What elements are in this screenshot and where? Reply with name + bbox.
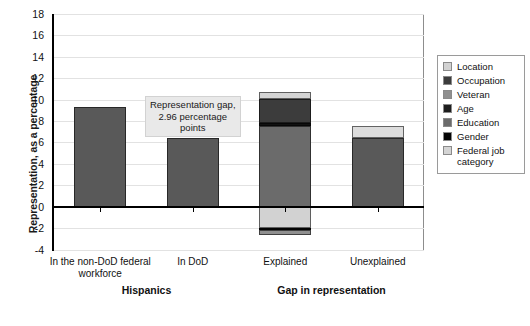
legend: LocationOccupationVeteranAgeEducationGen… — [437, 55, 525, 174]
legend-item-age[interactable]: Age — [443, 103, 520, 114]
plot-area: Representation gap, 2.96 percentage poin… — [52, 14, 424, 251]
y-axis-tick-label: 2 — [38, 179, 44, 191]
x-axis-label-unexplained: Unexplained — [326, 256, 430, 268]
legend-item-label: Location — [457, 61, 493, 72]
legend-item-label: Gender — [457, 131, 489, 142]
legend-item-label: Education — [457, 117, 499, 128]
bar-segment-unexplained-upper — [352, 126, 404, 138]
bar-segment-federal-job-category — [259, 92, 311, 99]
legend-item-label: Occupation — [457, 75, 505, 86]
group-label-gap-in-representation: Gap in representation — [242, 284, 422, 296]
y-axis-tick-label: 8 — [38, 115, 44, 127]
legend-item-occupation[interactable]: Occupation — [443, 75, 520, 86]
bar-explained[interactable] — [259, 14, 311, 250]
legend-item-location[interactable]: Location — [443, 61, 520, 72]
x-axis-label-in-dod: In DoD — [141, 256, 245, 268]
legend-item-label: Age — [457, 103, 474, 114]
y-axis-tick-label: 12 — [32, 72, 44, 84]
bar-segment-occupation — [259, 99, 311, 123]
bar-segment-gender — [259, 228, 311, 230]
legend-swatch-icon — [443, 146, 452, 155]
y-axis-tick-label: 6 — [38, 136, 44, 148]
bar-in-the-non-dod-federal-workforce[interactable] — [74, 14, 126, 250]
y-axis-tick-label: 18 — [32, 8, 44, 20]
x-axis-label-in-the-non-dod-federal-workforce: In the non-DoD federal workforce — [48, 256, 152, 280]
legend-swatch-icon — [443, 90, 452, 99]
legend-swatch-icon — [443, 104, 452, 113]
bar-unexplained[interactable] — [352, 14, 404, 250]
legend-item-label: Veteran — [457, 89, 490, 100]
bar-segment-age — [259, 123, 311, 126]
bar-segment-representation — [74, 107, 126, 207]
bar-segment-representation — [167, 138, 219, 206]
bar-segment-unexplained-lower — [352, 138, 404, 207]
y-axis-tick-label: 16 — [32, 29, 44, 41]
bar-segment-veteran — [259, 230, 311, 235]
annotation-representation-gap: Representation gap, 2.96 percentage poin… — [145, 96, 241, 137]
y-axis-tick-label: 4 — [38, 158, 44, 170]
plot-right-border — [423, 14, 424, 250]
x-axis-label-explained: Explained — [233, 256, 337, 268]
y-axis-tick-label: 14 — [32, 51, 44, 63]
y-axis-tick-label: -2 — [35, 222, 44, 234]
legend-swatch-icon — [443, 132, 452, 141]
bar-segment-education — [259, 126, 311, 207]
legend-item-education[interactable]: Education — [443, 117, 520, 128]
grid-line — [54, 250, 424, 251]
legend-item-veteran[interactable]: Veteran — [443, 89, 520, 100]
legend-swatch-icon — [443, 118, 452, 127]
y-axis-tick-label: -4 — [35, 244, 44, 256]
y-axis-tick-labels: 181614121086420-2-4 — [0, 14, 46, 251]
group-label-hispanics: Hispanics — [57, 284, 237, 296]
legend-item-federal-job-category[interactable]: Federal job category — [443, 145, 520, 167]
legend-item-gender[interactable]: Gender — [443, 131, 520, 142]
zero-baseline — [54, 206, 424, 208]
legend-swatch-icon — [443, 62, 452, 71]
chart-root: Representation, as a percentage 18161412… — [0, 0, 530, 326]
legend-swatch-icon — [443, 76, 452, 85]
y-axis-tick-label: 0 — [38, 201, 44, 213]
legend-item-label: Federal job category — [457, 145, 520, 167]
y-axis-tick-label: 10 — [32, 94, 44, 106]
